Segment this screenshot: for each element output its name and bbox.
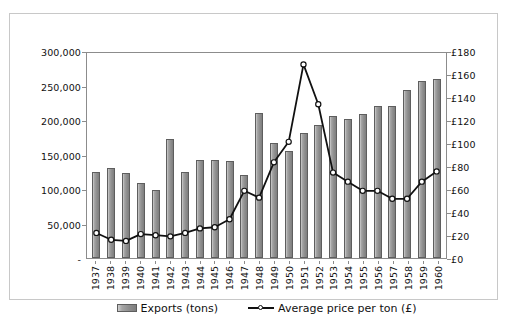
y-right-tick <box>447 75 451 76</box>
x-axis-slot: 1943 <box>177 261 192 301</box>
y-left-tick-label: 250,000 <box>41 81 81 92</box>
x-axis-label-1958: 1958 <box>402 266 413 290</box>
x-axis-label-1938: 1938 <box>105 266 116 290</box>
y-right-tick <box>447 52 451 53</box>
x-axis-tick <box>438 261 439 264</box>
x-axis-slot: 1945 <box>207 261 222 301</box>
x-axis-label-1937: 1937 <box>90 266 101 290</box>
y-right-tick <box>447 121 451 122</box>
x-axis-tick <box>244 261 245 264</box>
x-axis-slot: 1937 <box>88 261 103 301</box>
line-marker-icon <box>248 304 274 312</box>
y-right-tick-label: £120 <box>451 116 476 127</box>
price-marker-1949 <box>271 160 276 165</box>
x-axis: 1937193819391940194119421943194419451946… <box>86 261 447 301</box>
price-marker-1959 <box>419 179 424 184</box>
price-marker-1958 <box>404 196 409 201</box>
price-marker-1942 <box>168 234 173 239</box>
y-right-tick <box>447 213 451 214</box>
x-axis-slot: 1941 <box>148 261 163 301</box>
x-axis-slot: 1956 <box>371 261 386 301</box>
x-axis-label-1950: 1950 <box>283 266 294 290</box>
x-axis-label-1944: 1944 <box>194 266 205 290</box>
x-axis-label-1951: 1951 <box>298 266 309 290</box>
x-axis-tick <box>214 261 215 264</box>
price-marker-1939 <box>123 238 128 243</box>
x-axis-slot: 1953 <box>326 261 341 301</box>
y-right-tick <box>447 190 451 191</box>
y-left-tick-label: 150,000 <box>41 150 81 161</box>
price-marker-1952 <box>316 102 321 107</box>
x-axis-tick <box>304 261 305 264</box>
x-axis-slot: 1942 <box>162 261 177 301</box>
x-axis-slot: 1940 <box>133 261 148 301</box>
price-marker-1957 <box>390 196 395 201</box>
x-axis-slot: 1955 <box>356 261 371 301</box>
price-marker-1937 <box>94 230 99 235</box>
y-right-tick-label: £140 <box>451 93 476 104</box>
x-axis-tick <box>125 261 126 264</box>
x-axis-tick <box>229 261 230 264</box>
x-axis-label-1945: 1945 <box>209 266 220 290</box>
x-axis-tick <box>155 261 156 264</box>
x-axis-tick <box>170 261 171 264</box>
y-right-tick <box>447 236 451 237</box>
legend-item-average-price: Average price per ton (£) <box>248 302 416 315</box>
x-axis-label-1942: 1942 <box>164 266 175 290</box>
price-marker-1938 <box>109 237 114 242</box>
x-axis-label-1959: 1959 <box>417 266 428 290</box>
x-axis-label-1939: 1939 <box>120 266 131 290</box>
price-marker-1947 <box>242 188 247 193</box>
x-axis-label-1941: 1941 <box>149 266 160 290</box>
y-right-tick <box>447 259 451 260</box>
chart-legend: Exports (tons) Average price per ton (£) <box>86 299 447 315</box>
x-axis-tick <box>348 261 349 264</box>
y-right-tick-label: £20 <box>451 231 469 242</box>
y-left-tick-label: 200,000 <box>41 116 81 127</box>
x-axis-tick <box>393 261 394 264</box>
x-axis-label-1957: 1957 <box>387 266 398 290</box>
price-marker-1945 <box>212 225 217 230</box>
x-axis-tick <box>423 261 424 264</box>
x-axis-label-1946: 1946 <box>224 266 235 290</box>
price-marker-1946 <box>227 217 232 222</box>
price-marker-1943 <box>183 230 188 235</box>
y-right-tick <box>447 98 451 99</box>
x-axis-slot: 1947 <box>237 261 252 301</box>
y-right-tick-label: £180 <box>451 47 476 58</box>
x-axis-slot: 1938 <box>103 261 118 301</box>
x-axis-label-1948: 1948 <box>254 266 265 290</box>
y-axis-right-ticks <box>447 52 452 259</box>
x-axis-slot: 1939 <box>118 261 133 301</box>
x-axis-tick <box>289 261 290 264</box>
x-axis-label-1953: 1953 <box>328 266 339 290</box>
price-marker-1951 <box>301 62 306 67</box>
price-marker-1954 <box>345 179 350 184</box>
x-axis-tick <box>200 261 201 264</box>
x-axis-slot: 1952 <box>311 261 326 301</box>
price-marker-1956 <box>375 188 380 193</box>
chart-frame: -50,000100,000150,000200,000250,000300,0… <box>9 13 498 300</box>
x-axis-slot: 1954 <box>341 261 356 301</box>
y-right-tick-label: £0 <box>451 254 463 265</box>
price-marker-1953 <box>330 170 335 175</box>
x-axis-slot: 1949 <box>267 261 282 301</box>
price-line-path <box>96 64 436 241</box>
x-axis-slot: 1951 <box>296 261 311 301</box>
x-axis-label-1954: 1954 <box>343 266 354 290</box>
y-right-tick-label: £100 <box>451 139 476 150</box>
x-axis-slot: 1948 <box>252 261 267 301</box>
y-left-tick-label: 50,000 <box>47 219 81 230</box>
x-axis-label-1947: 1947 <box>239 266 250 290</box>
x-axis-slot: 1958 <box>400 261 415 301</box>
x-axis-tick <box>378 261 379 264</box>
x-axis-slot: 1959 <box>415 261 430 301</box>
x-axis-label-1956: 1956 <box>373 266 384 290</box>
x-axis-tick <box>259 261 260 264</box>
price-marker-1948 <box>257 195 262 200</box>
y-right-tick-label: £60 <box>451 185 469 196</box>
bar-swatch-icon <box>117 304 137 312</box>
legend-label-exports: Exports (tons) <box>141 302 219 315</box>
price-marker-1950 <box>286 139 291 144</box>
x-axis-label-1943: 1943 <box>179 266 190 290</box>
